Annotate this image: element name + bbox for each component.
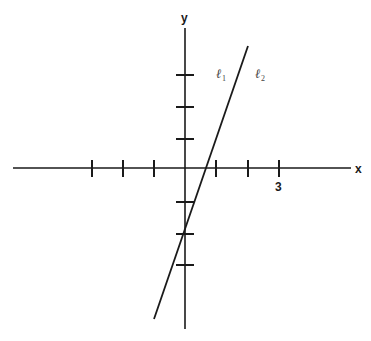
x-tick-label-3: 3 [275, 180, 282, 194]
label-l1-subscript: 1 [222, 74, 226, 83]
label-l1: ℓ 1 [216, 66, 226, 83]
label-l2: ℓ 2 [255, 66, 265, 83]
coordinate-plane-diagram: x y 3 ℓ 1 ℓ 2 [0, 0, 371, 341]
line-l1-l2 [154, 46, 248, 319]
x-axis-label: x [355, 162, 362, 176]
y-axis-label: y [181, 11, 188, 25]
label-l2-subscript: 2 [261, 74, 265, 83]
